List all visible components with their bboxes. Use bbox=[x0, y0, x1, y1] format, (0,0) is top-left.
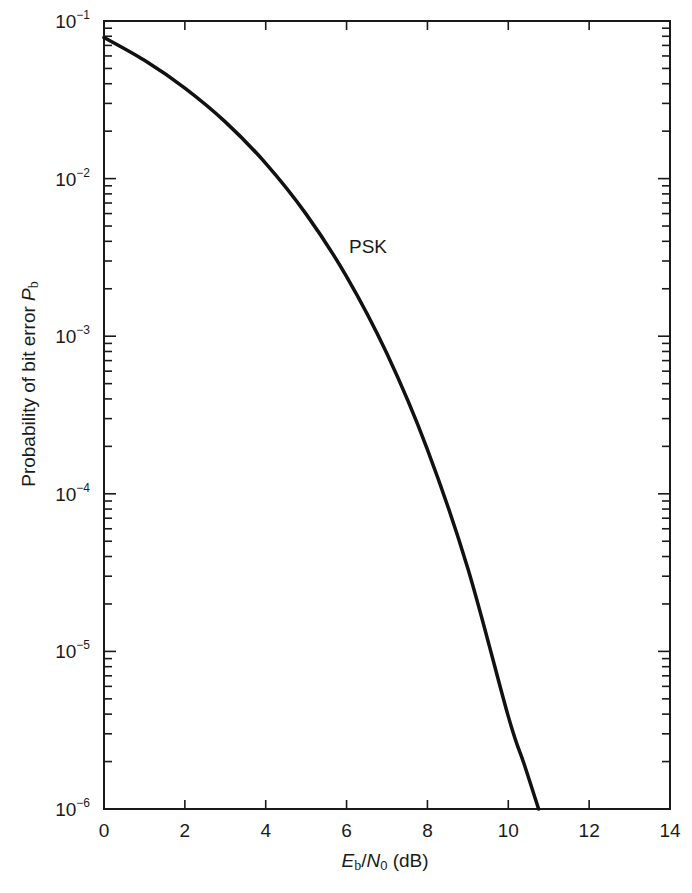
x-tick-label: 2 bbox=[180, 820, 191, 841]
axis-ticks bbox=[104, 21, 670, 809]
x-tick-label: 4 bbox=[260, 820, 271, 841]
y-tick-label: 10−6 bbox=[55, 796, 90, 820]
psk-ber-chart: 10−110−210−310−410−510−6 02468101214 PSK… bbox=[0, 0, 692, 893]
plot-frame bbox=[104, 21, 670, 809]
x-tick-label: 10 bbox=[498, 820, 519, 841]
x-tick-label: 12 bbox=[579, 820, 600, 841]
x-axis-title: Eb/N0 (dB) bbox=[341, 850, 428, 873]
y-tick-label: 10−2 bbox=[55, 166, 90, 190]
y-tick-label: 10−4 bbox=[55, 481, 90, 505]
psk-curve bbox=[104, 37, 539, 809]
x-tick-label: 6 bbox=[341, 820, 352, 841]
y-axis-title: Probability of bit error Pb bbox=[18, 281, 41, 487]
series-label-psk: PSK bbox=[349, 236, 387, 257]
y-tick-label: 10−5 bbox=[55, 638, 90, 662]
x-tick-label: 14 bbox=[659, 820, 681, 841]
x-tick-label: 8 bbox=[422, 820, 433, 841]
y-tick-labels: 10−110−210−310−410−510−6 bbox=[55, 8, 90, 820]
y-tick-label: 10−3 bbox=[55, 323, 90, 347]
y-tick-label: 10−1 bbox=[55, 8, 90, 32]
x-tick-labels: 02468101214 bbox=[99, 820, 681, 841]
x-tick-label: 0 bbox=[99, 820, 110, 841]
